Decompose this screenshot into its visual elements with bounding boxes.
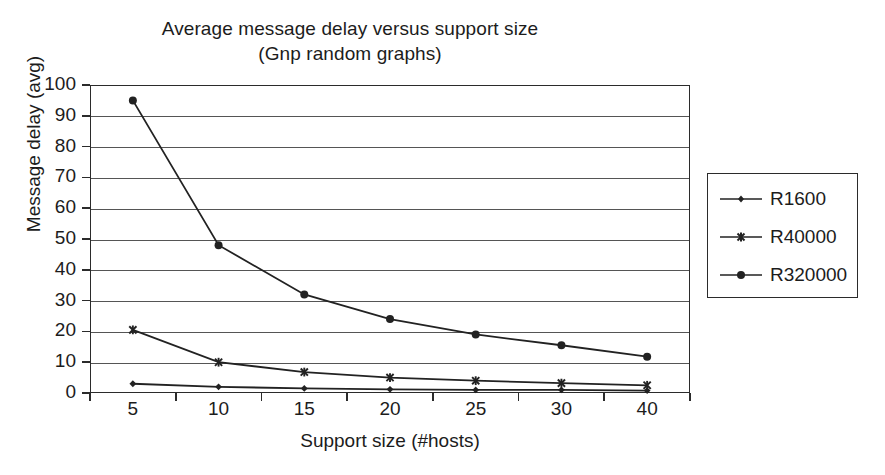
- gridline: [91, 363, 689, 364]
- gridline: [91, 332, 689, 333]
- y-tick-mark: [82, 207, 90, 209]
- x-tick-label: 10: [189, 398, 249, 420]
- x-tick-mark: [261, 393, 263, 401]
- chart-title-line-1: Average message delay versus support siz…: [0, 16, 700, 41]
- gridline: [91, 116, 689, 117]
- x-axis-title: Support size (#hosts): [90, 430, 690, 452]
- gridline: [91, 178, 689, 179]
- x-tick-label: 15: [274, 398, 334, 420]
- gridline: [91, 147, 689, 148]
- legend-item-r1600[interactable]: R1600: [718, 188, 826, 210]
- gridline: [91, 240, 689, 241]
- x-tick-mark: [175, 393, 177, 401]
- y-tick-mark: [82, 146, 90, 148]
- x-tick-mark: [603, 393, 605, 401]
- x-tick-mark: [689, 393, 691, 401]
- gridline: [91, 209, 689, 210]
- x-tick-label: 25: [446, 398, 506, 420]
- y-tick-label: 100: [30, 73, 76, 95]
- y-tick-label: 30: [30, 289, 76, 311]
- legend-label-r40000: R40000: [770, 226, 837, 248]
- gridline: [91, 270, 689, 271]
- legend-marker-circle-icon: [718, 265, 764, 285]
- x-tick-label: 40: [617, 398, 677, 420]
- chart-title: Average message delay versus support siz…: [0, 16, 700, 66]
- y-tick-label: 80: [30, 135, 76, 157]
- y-tick-mark: [82, 115, 90, 117]
- x-tick-label: 30: [531, 398, 591, 420]
- legend-item-r40000[interactable]: R40000: [718, 226, 837, 248]
- x-tick-label: 20: [360, 398, 420, 420]
- y-tick-label: 10: [30, 350, 76, 372]
- y-tick-mark: [82, 300, 90, 302]
- x-tick-mark: [89, 393, 91, 401]
- y-tick-mark: [82, 269, 90, 271]
- y-tick-label: 60: [30, 196, 76, 218]
- x-tick-mark: [346, 393, 348, 401]
- legend-marker-asterisk-icon: [718, 227, 764, 247]
- legend-item-r320000[interactable]: R320000: [718, 264, 847, 286]
- chart-legend: R1600 R40000 R320000: [707, 173, 858, 298]
- y-tick-mark: [82, 361, 90, 363]
- x-tick-mark: [518, 393, 520, 401]
- y-tick-mark: [82, 331, 90, 333]
- y-tick-label: 40: [30, 258, 76, 280]
- x-tick-mark: [432, 393, 434, 401]
- y-tick-mark: [82, 84, 90, 86]
- y-tick-label: 90: [30, 104, 76, 126]
- y-tick-label: 0: [30, 381, 76, 403]
- gridline: [91, 301, 689, 302]
- y-tick-label: 70: [30, 165, 76, 187]
- plot-area: [90, 85, 690, 393]
- y-tick-label: 20: [30, 319, 76, 341]
- legend-label-r1600: R1600: [770, 188, 826, 210]
- chart-title-line-2: (Gnp random graphs): [0, 41, 700, 66]
- y-tick-mark: [82, 177, 90, 179]
- y-tick-label: 50: [30, 227, 76, 249]
- legend-label-r320000: R320000: [770, 264, 847, 286]
- y-tick-mark: [82, 238, 90, 240]
- legend-marker-diamond-icon: [718, 189, 764, 209]
- x-tick-label: 5: [103, 398, 163, 420]
